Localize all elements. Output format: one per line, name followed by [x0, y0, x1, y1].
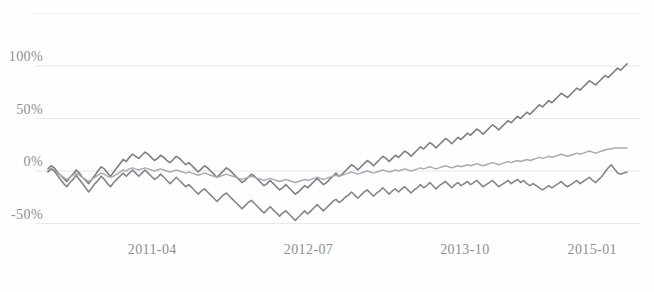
- y-axis-tick-label: -50%: [11, 207, 43, 222]
- y-axis-tick-label: 50%: [16, 102, 43, 117]
- series-lines: [48, 64, 627, 220]
- chart-container: -50%0%50%100% 2011-042012-072013-102015-…: [0, 0, 654, 292]
- x-axis-tick-label: 2012-07: [284, 242, 333, 257]
- x-axis-tick-label: 2011-04: [128, 242, 177, 257]
- x-axis-tick-label: 2013-10: [440, 242, 489, 257]
- series-line-series-3: [48, 165, 627, 221]
- y-axis-tick-label: 0%: [24, 154, 43, 169]
- y-axis-tick-labels: -50%0%50%100%: [9, 49, 43, 222]
- x-axis-tick-labels: 2011-042012-072013-102015-01: [128, 242, 617, 257]
- x-axis-tick-label: 2015-01: [568, 242, 617, 257]
- line-chart: -50%0%50%100% 2011-042012-072013-102015-…: [0, 0, 654, 292]
- series-line-series-1: [48, 64, 627, 194]
- gridlines: [30, 14, 641, 224]
- y-axis-tick-label: 100%: [9, 49, 43, 64]
- series-line-series-2: [48, 148, 627, 183]
